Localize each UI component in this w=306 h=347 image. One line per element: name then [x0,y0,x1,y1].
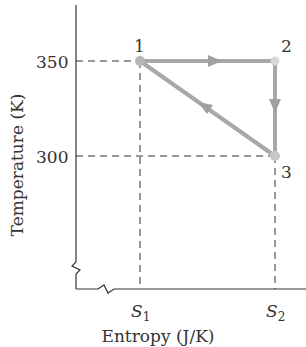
y-tick-350: 350 [36,52,68,72]
guide-lines [76,61,275,289]
arrow-icons [198,55,281,114]
label-2: 2 [281,36,292,56]
x-axis [76,285,306,293]
point-1 [135,56,145,66]
label-3: 3 [281,162,292,182]
x-axis-title: Entropy (J/K) [102,326,215,346]
x-tick-s2: S2 [266,301,285,324]
point-3 [270,151,280,161]
ts-diagram: 1 2 3 350 300 S1 S2 Entropy (J/K) Temper… [0,0,306,347]
point-2 [271,57,280,66]
y-axis [72,5,80,289]
arrow-right-icon [208,55,222,67]
y-tick-300: 300 [36,147,68,167]
y-axis-title: Temperature (K) [7,94,27,237]
arrow-down-icon [269,99,281,113]
label-1: 1 [134,36,145,56]
x-tick-s1: S1 [131,301,150,324]
